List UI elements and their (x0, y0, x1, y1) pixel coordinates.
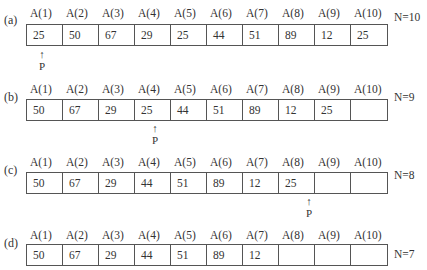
array-cell: 29 (135, 25, 171, 45)
pointer-label: P (36, 60, 48, 72)
array-cells: 50 67 29 44 51 89 12 (26, 244, 388, 266)
index-label: A(10) (350, 7, 386, 19)
index-label: A(5) (170, 229, 206, 241)
index-label: A(3) (98, 7, 134, 19)
index-label: A(1) (26, 83, 62, 95)
array-cell: 29 (99, 100, 135, 120)
array-cell: 50 (27, 173, 63, 193)
index-label: A(6) (206, 7, 242, 19)
array-cell (315, 173, 351, 193)
index-label: A(7) (242, 83, 278, 95)
index-label: A(4) (134, 156, 170, 168)
pointer-label: P (149, 134, 161, 146)
array-cell: 25 (315, 100, 351, 120)
index-label: A(7) (242, 156, 278, 168)
index-label: A(9) (314, 229, 350, 241)
up-arrow-icon: ↑ (303, 196, 315, 206)
array-cell: 51 (243, 25, 279, 45)
count-label: N=9 (394, 91, 415, 103)
index-label: A(9) (314, 7, 350, 19)
index-label: A(8) (278, 7, 314, 19)
index-label: A(1) (26, 7, 62, 19)
index-label: A(5) (170, 7, 206, 19)
array-cell: 67 (63, 100, 99, 120)
row-tag: (c) (4, 163, 17, 178)
index-label: A(5) (170, 83, 206, 95)
array-cell: 44 (135, 245, 171, 265)
count-label: N=7 (394, 248, 415, 260)
array-cell: 25 (135, 100, 171, 120)
index-label: A(8) (278, 156, 314, 168)
row-tag: (a) (4, 13, 17, 28)
array-cell: 29 (99, 173, 135, 193)
array-cell: 89 (243, 100, 279, 120)
index-label: A(2) (62, 83, 98, 95)
array-cell (279, 245, 315, 265)
array-cell: 12 (243, 173, 279, 193)
index-label: A(2) (62, 7, 98, 19)
index-label: A(2) (62, 229, 98, 241)
array-cells: 25 50 67 29 25 44 51 89 12 25 (26, 24, 388, 46)
array-cell: 50 (27, 245, 63, 265)
index-label: A(8) (278, 83, 314, 95)
index-label: A(8) (278, 229, 314, 241)
pointer: ↑ P (149, 123, 161, 146)
array-cell: 50 (27, 100, 63, 120)
array-cell (351, 245, 387, 265)
index-label: A(1) (26, 156, 62, 168)
array-cell: 25 (171, 25, 207, 45)
array-cell: 25 (279, 173, 315, 193)
array-cell: 51 (171, 173, 207, 193)
array-cell: 67 (99, 25, 135, 45)
index-label: A(7) (242, 7, 278, 19)
array-cell: 51 (171, 245, 207, 265)
index-label: A(1) (26, 229, 62, 241)
index-label: A(4) (134, 83, 170, 95)
count-label: N=8 (394, 169, 415, 181)
array-cell: 67 (63, 245, 99, 265)
array-cell (315, 245, 351, 265)
index-label: A(3) (98, 83, 134, 95)
index-label: A(6) (206, 229, 242, 241)
array-cell: 25 (351, 25, 387, 45)
array-cell: 25 (27, 25, 63, 45)
array-cell: 44 (135, 173, 171, 193)
index-label: A(7) (242, 229, 278, 241)
count-label: N=10 (394, 11, 420, 23)
array-cells: 50 67 29 25 44 51 89 12 25 (26, 99, 388, 121)
array-cell: 89 (207, 245, 243, 265)
index-label: A(6) (206, 83, 242, 95)
array-cell: 12 (315, 25, 351, 45)
index-label: A(10) (350, 83, 386, 95)
array-cell: 67 (63, 173, 99, 193)
index-label: A(6) (206, 156, 242, 168)
array-cell (351, 100, 387, 120)
array-cells: 50 67 29 44 51 89 12 25 (26, 172, 388, 194)
array-cell: 50 (63, 25, 99, 45)
array-cell: 89 (207, 173, 243, 193)
array-cell: 12 (243, 245, 279, 265)
index-label: A(4) (134, 229, 170, 241)
index-label: A(10) (350, 229, 386, 241)
row-tag: (d) (4, 236, 18, 251)
up-arrow-icon: ↑ (36, 49, 48, 59)
index-label: A(9) (314, 83, 350, 95)
index-label: A(9) (314, 156, 350, 168)
index-label: A(10) (350, 156, 386, 168)
pointer: ↑ P (303, 196, 315, 219)
index-label: A(3) (98, 229, 134, 241)
pointer-label: P (303, 207, 315, 219)
array-cell: 12 (279, 100, 315, 120)
index-label: A(3) (98, 156, 134, 168)
array-cell: 44 (171, 100, 207, 120)
pointer: ↑ P (36, 49, 48, 72)
array-cell (351, 173, 387, 193)
array-cell: 51 (207, 100, 243, 120)
array-cell: 29 (99, 245, 135, 265)
array-cell: 89 (279, 25, 315, 45)
index-label: A(2) (62, 156, 98, 168)
row-tag: (b) (4, 90, 18, 105)
index-label: A(5) (170, 156, 206, 168)
up-arrow-icon: ↑ (149, 123, 161, 133)
array-cell: 44 (207, 25, 243, 45)
